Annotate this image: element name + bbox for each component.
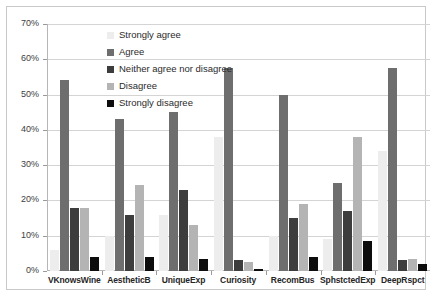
bar [418,264,427,271]
bar [125,215,134,271]
y-tick-label: 40% [7,125,39,134]
legend-swatch-icon [107,49,114,56]
bar [80,208,89,272]
chart-frame: VKnowsWineAestheticBUniqueExpCuriosityRe… [6,6,426,290]
bar [90,257,99,271]
bar [378,151,387,271]
legend-item[interactable]: Agree [107,46,232,58]
legend-swatch-icon [107,32,114,39]
bar [343,211,352,271]
bar [323,239,332,271]
chart-legend: Strongly agreeAgreeNeither agree nor dis… [107,29,232,109]
x-tick-mark [102,271,103,275]
legend-label: Strongly agree [119,30,181,40]
y-tick-mark [43,236,47,237]
chart-container: VKnowsWineAestheticBUniqueExpCuriosityRe… [0,0,433,300]
bar [353,137,362,271]
bar [254,269,263,271]
legend-label: Neither agree nor disagree [119,64,232,74]
legend-label: Agree [119,47,144,57]
legend-label: Disagree [119,81,157,91]
bar [105,236,114,271]
bar [363,241,372,271]
bar [244,262,253,271]
bar [214,137,223,271]
y-tick-mark [43,24,47,25]
x-tick-mark [375,271,376,275]
x-tick-mark [321,271,322,275]
bar [269,236,278,271]
y-tick-mark [43,95,47,96]
y-tick-mark [43,200,47,201]
bar [145,257,154,271]
y-tick-mark [43,165,47,166]
x-axis-label: RecomBus [265,275,320,285]
x-axis-label: DeepRspct [375,275,430,285]
bar [309,257,318,271]
x-tick-mark [211,271,212,275]
bar-group [375,24,430,271]
y-tick-mark [43,59,47,60]
x-axis-label: UniqueExp [156,275,211,285]
x-axis-label: SphstctedExp [320,275,375,285]
legend-item[interactable]: Disagree [107,80,232,92]
x-axis-label: VKnowsWine [47,275,102,285]
bar [60,80,69,271]
bar [333,183,342,271]
bar [199,259,208,271]
bar [299,204,308,271]
bar [398,260,407,271]
bar-groups [47,24,430,271]
bar-group [47,24,102,271]
legend-swatch-icon [107,100,114,107]
bar [70,208,79,272]
y-tick-mark [43,130,47,131]
bar [159,215,168,271]
x-axis-label: AestheticB [102,275,157,285]
bar [289,218,298,271]
bar [179,190,188,271]
y-tick-label: 50% [7,90,39,99]
bar [279,95,288,271]
legend-swatch-icon [107,83,114,90]
bar-group [266,24,321,271]
x-tick-mark [156,271,157,275]
bar [189,225,198,271]
legend-label: Strongly disagree [119,98,193,108]
x-axis-label: Curiosity [211,275,266,285]
x-tick-mark [266,271,267,275]
legend-item[interactable]: Strongly agree [107,29,232,41]
legend-item[interactable]: Strongly disagree [107,97,232,109]
bar [408,259,417,271]
x-axis-labels: VKnowsWineAestheticBUniqueExpCuriosityRe… [47,275,430,285]
y-tick-label: 10% [7,231,39,240]
bar [50,250,59,271]
y-tick-mark [43,271,47,272]
bar [234,260,243,271]
y-tick-label: 30% [7,160,39,169]
legend-swatch-icon [107,66,114,73]
y-tick-label: 0% [7,266,39,275]
y-tick-label: 60% [7,54,39,63]
bar-group [321,24,376,271]
bar [388,68,397,271]
y-tick-label: 20% [7,195,39,204]
bar [115,119,124,271]
y-tick-label: 70% [7,19,39,28]
legend-item[interactable]: Neither agree nor disagree [107,63,232,75]
bar [169,112,178,271]
bar [135,185,144,271]
